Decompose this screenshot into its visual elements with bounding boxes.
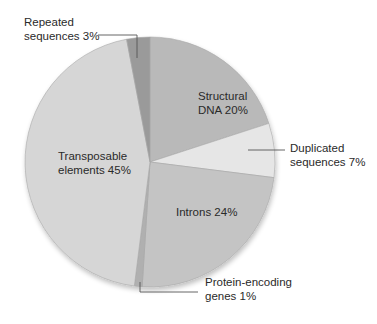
slice-label: Protein-encodinggenes 1% <box>205 276 292 302</box>
pie-slice-introns <box>142 162 274 287</box>
slice-label: Repeatedsequences 3% <box>24 16 99 42</box>
slice-label: Introns 24% <box>176 206 237 218</box>
slice-label: Transposableelements 45% <box>58 150 131 176</box>
slice-label: StructuralDNA 20% <box>198 90 248 116</box>
slice-label: Duplicatedsequences 7% <box>290 142 365 168</box>
pie-chart: StructuralDNA 20%Duplicatedsequences 7%I… <box>0 0 377 324</box>
